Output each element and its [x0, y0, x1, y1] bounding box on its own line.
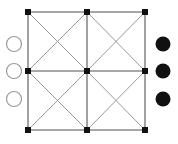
grid-node[interactable]	[25, 9, 31, 15]
hollow-circle-node[interactable]	[7, 92, 22, 107]
filled-circle-node[interactable]	[156, 64, 171, 79]
filled-circle-node[interactable]	[156, 37, 171, 52]
grid-node[interactable]	[142, 68, 148, 74]
graph-diagram	[0, 0, 178, 144]
hollow-circle-node[interactable]	[7, 37, 22, 52]
grid-node[interactable]	[142, 127, 148, 133]
hollow-circle-group	[7, 37, 22, 107]
filled-circle-group	[156, 37, 171, 107]
filled-circle-node[interactable]	[156, 92, 171, 107]
diagram-canvas	[0, 0, 178, 144]
grid-node[interactable]	[25, 68, 31, 74]
grid-node[interactable]	[25, 127, 31, 133]
hollow-circle-node[interactable]	[7, 64, 22, 79]
grid-node[interactable]	[84, 9, 90, 15]
grid-node[interactable]	[142, 9, 148, 15]
grid-node[interactable]	[84, 127, 90, 133]
grid-node[interactable]	[84, 68, 90, 74]
